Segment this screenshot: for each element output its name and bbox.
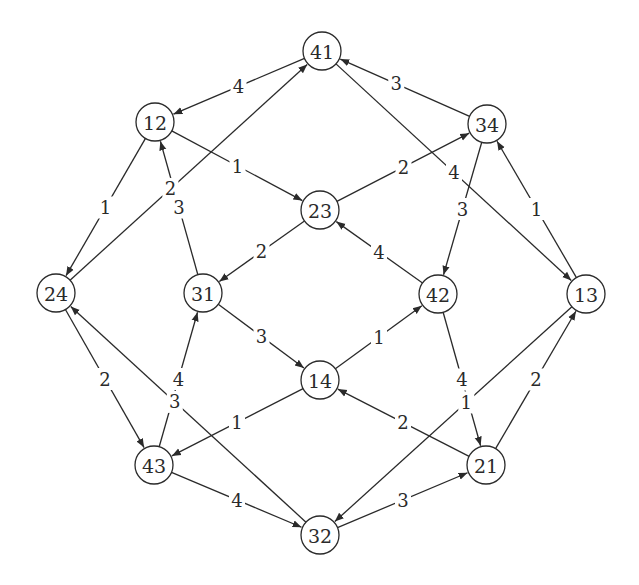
graph-node-14: 14 <box>301 361 339 399</box>
nodes-layer: 411234232431421314432132 <box>37 32 605 554</box>
graph-node-24: 24 <box>37 274 75 312</box>
edge-label: 4 <box>454 369 470 391</box>
edge-weight-label: 1 <box>232 156 243 177</box>
edge-weight-label: 4 <box>448 162 459 183</box>
graph-node-42: 42 <box>419 275 457 313</box>
edge-34-to-41 <box>340 59 469 116</box>
node-label: 24 <box>44 283 68 305</box>
edge-label: 3 <box>167 391 183 413</box>
edge-24-to-41 <box>70 64 307 280</box>
edge-weight-label: 3 <box>169 391 180 412</box>
graph-node-21: 21 <box>467 446 505 484</box>
edge-label: 2 <box>254 241 270 263</box>
edge-weight-label: 3 <box>457 199 468 220</box>
graph-canvas: 423411323124341423124312 411234232431421… <box>0 0 639 585</box>
node-label: 43 <box>142 455 166 477</box>
edge-weight-label: 3 <box>391 73 402 94</box>
edge-weight-label: 4 <box>233 76 244 97</box>
node-label: 13 <box>574 284 598 306</box>
graph-node-23: 23 <box>301 191 339 229</box>
graph-node-31: 31 <box>184 274 222 312</box>
edge-label: 1 <box>371 326 387 348</box>
edge-weight-label: 4 <box>373 242 384 263</box>
edge-label: 4 <box>371 241 387 263</box>
node-label: 32 <box>308 525 332 547</box>
edge-13-to-32 <box>335 307 572 522</box>
edge-label: 3 <box>388 73 404 95</box>
graph-diagram: 423411323124341423124312 411234232431421… <box>0 0 639 585</box>
graph-node-43: 43 <box>135 446 173 484</box>
edge-label: 4 <box>446 162 462 184</box>
edge-label: 2 <box>395 412 411 434</box>
node-label: 21 <box>474 455 498 477</box>
edge-label: 3 <box>254 326 270 348</box>
edge-label: 4 <box>229 489 245 511</box>
edge-weight-label: 2 <box>397 412 408 433</box>
node-label: 42 <box>426 284 450 306</box>
edge-weight-label: 2 <box>99 369 110 390</box>
edge-32-to-24 <box>71 307 306 523</box>
edge-label: 1 <box>229 412 245 434</box>
edge-weight-label: 4 <box>456 369 467 390</box>
graph-node-41: 41 <box>303 32 341 70</box>
node-label: 41 <box>310 41 334 63</box>
edge-label: 2 <box>528 369 544 391</box>
edge-weight-label: 1 <box>531 199 542 220</box>
node-label: 31 <box>191 283 215 305</box>
edge-label: 4 <box>231 76 247 98</box>
edge-weight-label: 1 <box>231 412 242 433</box>
edge-weight-label: 1 <box>100 197 111 218</box>
edge-weight-label: 3 <box>397 490 408 511</box>
edge-weight-label: 2 <box>256 241 267 262</box>
graph-node-13: 13 <box>567 275 605 313</box>
edge-label: 1 <box>458 391 474 413</box>
node-label: 23 <box>308 200 332 222</box>
graph-node-34: 34 <box>468 105 506 143</box>
edge-label: 2 <box>97 368 113 390</box>
graph-node-32: 32 <box>301 516 339 554</box>
edge-weight-label: 2 <box>398 157 409 178</box>
edge-label: 1 <box>529 198 545 220</box>
graph-node-12: 12 <box>136 103 174 141</box>
edge-label: 1 <box>98 197 114 219</box>
edge-label: 1 <box>230 155 246 177</box>
node-label: 14 <box>308 370 332 392</box>
edge-label: 2 <box>396 156 412 178</box>
edge-weight-label: 3 <box>173 197 184 218</box>
edge-weight-label: 4 <box>173 369 184 390</box>
node-label: 12 <box>143 112 167 134</box>
edge-weight-label: 4 <box>231 490 242 511</box>
node-label: 34 <box>475 114 499 136</box>
edge-label: 3 <box>171 197 187 219</box>
edge-weight-label: 1 <box>461 392 472 413</box>
edge-label: 3 <box>455 198 471 220</box>
edge-label: 3 <box>395 489 411 511</box>
edge-weight-label: 1 <box>373 327 384 348</box>
edge-weight-label: 3 <box>256 326 267 347</box>
edge-label: 4 <box>171 368 187 390</box>
edge-weight-label: 2 <box>530 369 541 390</box>
